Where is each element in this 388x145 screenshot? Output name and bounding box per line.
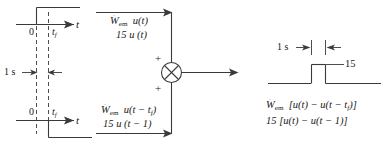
summing-junction-plus-top: + [155, 53, 161, 64]
top-signal-w-symbol: ˙W [110, 16, 119, 27]
output-eq-dot: ˙ [269, 98, 271, 105]
top-graph-axis-label: t [76, 19, 79, 30]
output-eq-sub: em [275, 104, 284, 112]
top-signal-expression-line1: ˙Wem u(t) [110, 16, 148, 28]
summing-junction-plus-bottom: + [155, 83, 161, 94]
interval-marker-label: 1 s [4, 67, 15, 77]
bottom-signal-rest-pre: u(t − t [124, 104, 151, 115]
top-graph-tf-label: tf [52, 27, 57, 38]
signal-block-diagram: t 0 tf t 0 tf 1 s ˙Wem u(t) 15 u (t) ˙We… [0, 0, 388, 145]
bottom-signal-rest-post: ) [153, 104, 157, 115]
output-eq-rest-post: )] [349, 99, 357, 110]
top-signal-rest: u(t) [133, 15, 148, 26]
top-graph-origin-label: 0 [29, 27, 34, 37]
output-equation-line2: 15 [u(t) − u(t − 1)] [266, 116, 348, 127]
output-equation-line1: ˙Wem [u(t) − u(t − tf)] [266, 100, 357, 112]
bottom-graph-tf-label: tf [52, 107, 57, 118]
bottom-signal-sub: em [110, 109, 119, 117]
output-eq-line2-text: 15 [u(t) − u(t − 1)] [266, 115, 348, 126]
top-signal-line2-text: 15 u (t) [116, 29, 147, 40]
bottom-signal-line2-text: 15 u (t − 1) [103, 118, 152, 129]
top-signal-dot: ˙ [113, 14, 115, 21]
pulse-width-label: 1 s [277, 42, 288, 52]
bottom-signal-w-symbol: ˙W [101, 105, 110, 116]
bottom-graph-tf-sub: f [55, 111, 57, 118]
pulse-amplitude-label: 15 [345, 59, 356, 70]
bottom-graph-axis-label: t [76, 115, 79, 126]
bottom-signal-dot: ˙ [104, 103, 106, 110]
top-signal-expression-line2: 15 u (t) [116, 30, 147, 41]
top-signal-sub: em [119, 20, 128, 28]
bottom-signal-expression-line1: ˙Wem u(t − tf) [101, 105, 156, 117]
top-graph-tf-sub: f [55, 31, 57, 38]
output-eq-rest-pre: [u(t) − u(t − t [289, 99, 348, 110]
bottom-signal-expression-line2: 15 u (t − 1) [103, 119, 152, 130]
bottom-graph-origin-label: 0 [29, 107, 34, 117]
output-eq-w-symbol: ˙W [266, 100, 275, 111]
